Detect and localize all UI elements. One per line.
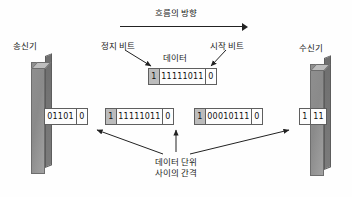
leader-lines-overlay bbox=[0, 0, 352, 197]
stop-bit-leader-arrow bbox=[125, 50, 151, 66]
start-bit-leader-arrow bbox=[211, 50, 226, 66]
gap-leader-arrow-left bbox=[97, 130, 163, 154]
async-transmission-diagram: 흐름의 방향 송신기 수신기 정지 비트 데이터 시작 비트 1 1111101… bbox=[0, 0, 352, 197]
gap-leader-arrow-right bbox=[190, 130, 289, 154]
